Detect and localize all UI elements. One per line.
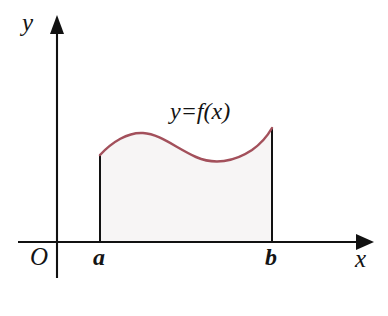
x-axis-label: x bbox=[355, 246, 366, 271]
y-axis-arrow-icon bbox=[50, 15, 64, 34]
area-under-curve-figure: y x O a b y=f(x) bbox=[0, 0, 388, 316]
function-equation-label: y=f(x) bbox=[170, 99, 230, 123]
upper-limit-label-b: b bbox=[265, 245, 277, 269]
origin-label: O bbox=[30, 244, 48, 269]
y-axis-label: y bbox=[22, 10, 33, 35]
figure-canvas bbox=[0, 0, 388, 316]
shaded-area-region bbox=[100, 128, 272, 242]
lower-limit-label-a: a bbox=[93, 245, 105, 269]
